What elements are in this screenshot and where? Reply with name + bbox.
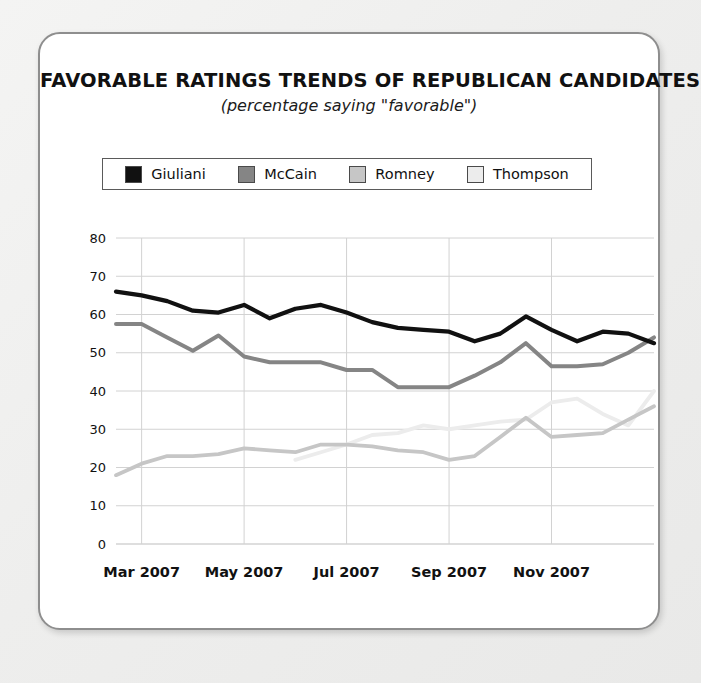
legend-swatch-mccain: [238, 166, 255, 183]
legend-label-romney: Romney: [375, 166, 434, 182]
y-tick-label: 70: [89, 269, 106, 284]
chart-legend: Giuliani McCain Romney Thompson: [102, 158, 592, 190]
legend-item-giuliani: Giuliani: [125, 166, 206, 183]
plot-area: 01020304050607080 Mar 2007May 2007Jul 20…: [40, 224, 662, 619]
y-tick-label: 60: [89, 307, 106, 322]
legend-label-thompson: Thompson: [493, 166, 569, 182]
page-background: FAVORABLE RATINGS TRENDS OF REPUBLICAN C…: [0, 0, 701, 683]
chart-subtitle: (percentage saying "favorable"): [40, 97, 658, 115]
legend-swatch-romney: [349, 166, 366, 183]
y-tick-label: 0: [98, 537, 106, 552]
legend-swatch-giuliani: [125, 166, 142, 183]
chart-card: FAVORABLE RATINGS TRENDS OF REPUBLICAN C…: [38, 32, 660, 630]
legend-item-mccain: McCain: [238, 166, 317, 183]
legend-swatch-thompson: [467, 166, 484, 183]
series-line-thompson: [295, 391, 654, 460]
legend-label-giuliani: Giuliani: [151, 166, 206, 182]
legend-label-mccain: McCain: [264, 166, 317, 182]
y-tick-label: 50: [89, 345, 106, 360]
x-tick-label: Sep 2007: [411, 564, 487, 580]
legend-item-romney: Romney: [349, 166, 434, 183]
data-series: [116, 292, 654, 476]
y-axis-ticks: 01020304050607080: [89, 231, 106, 552]
series-line-giuliani: [116, 292, 654, 344]
gridlines: [116, 238, 654, 544]
page-title: FAVORABLE RATINGS TRENDS OF REPUBLICAN C…: [40, 70, 658, 91]
series-line-romney: [116, 406, 654, 475]
y-tick-label: 40: [89, 384, 106, 399]
x-axis-ticks: Mar 2007May 2007Jul 2007Sep 2007Nov 2007: [103, 564, 590, 580]
series-line-mccain: [116, 324, 654, 387]
x-tick-label: May 2007: [205, 564, 284, 580]
y-tick-label: 30: [89, 422, 106, 437]
y-tick-label: 10: [89, 498, 106, 513]
x-tick-label: Mar 2007: [103, 564, 180, 580]
title-block: FAVORABLE RATINGS TRENDS OF REPUBLICAN C…: [40, 70, 658, 115]
legend-item-thompson: Thompson: [467, 166, 569, 183]
line-chart-svg: 01020304050607080 Mar 2007May 2007Jul 20…: [40, 224, 662, 619]
x-tick-label: Jul 2007: [313, 564, 380, 580]
y-tick-label: 80: [89, 231, 106, 246]
x-tick-label: Nov 2007: [513, 564, 590, 580]
y-tick-label: 20: [89, 460, 106, 475]
